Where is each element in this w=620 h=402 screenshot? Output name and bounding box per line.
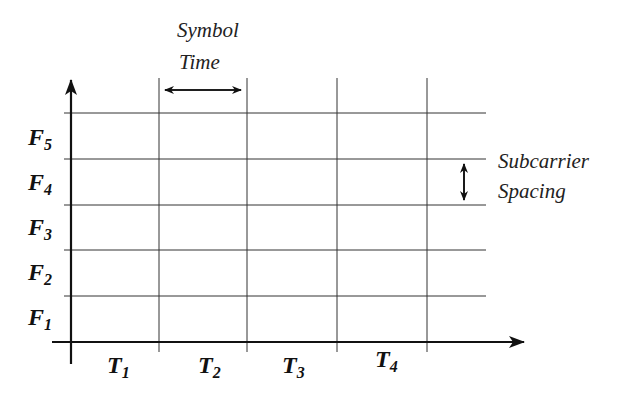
subcarrier-spacing-label-line1: Subcarrier <box>498 149 590 173</box>
symbol-time-label-line1: Symbol <box>177 18 239 42</box>
frequency-grid-lines <box>64 113 486 296</box>
time-label-t1: T1 <box>107 352 130 381</box>
time-labels: T1 T2 T3 T4 <box>107 346 398 381</box>
freq-label-f5: F5 <box>27 124 52 153</box>
ofdm-grid-diagram: Symbol Time Subcarrier Spacing F5 F4 F3 … <box>0 0 620 402</box>
subcarrier-spacing-label-line2: Spacing <box>498 179 566 203</box>
symbol-time-label-line2: Time <box>179 50 220 74</box>
time-label-t3: T3 <box>282 352 305 381</box>
frequency-labels: F5 F4 F3 F2 F1 <box>27 124 52 333</box>
time-label-t2: T2 <box>198 352 221 381</box>
freq-label-f1: F1 <box>27 304 52 333</box>
freq-label-f2: F2 <box>27 259 52 288</box>
freq-label-f4: F4 <box>27 169 52 198</box>
time-grid-lines <box>159 78 427 352</box>
freq-label-f3: F3 <box>27 214 52 243</box>
time-label-t4: T4 <box>375 346 398 375</box>
